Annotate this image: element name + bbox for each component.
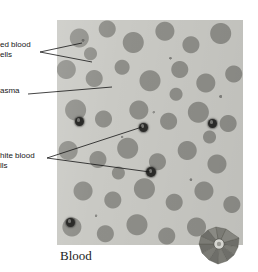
white-blood-cell-upper-left — [75, 117, 84, 126]
white-blood-cell-right — [208, 119, 217, 128]
white-blood-cell-lower-center — [146, 167, 156, 177]
label-red-blood-cells-line2: ells — [0, 50, 31, 60]
micrograph-plate — [57, 20, 243, 245]
label-plasma-line1: asma — [0, 86, 20, 96]
figure-caption: Blood — [60, 248, 92, 264]
blood-micrograph-figure: ed blood ells asma hite blood lls Blood — [0, 0, 258, 272]
micrograph-vignette — [57, 20, 243, 245]
pinwheel-diatom-icon — [196, 222, 242, 266]
label-red-blood-cells: ed blood ells — [0, 40, 31, 60]
white-blood-cell-center — [139, 123, 148, 132]
label-white-blood-cells: hite blood lls — [0, 151, 35, 171]
label-red-blood-cells-line1: ed blood — [0, 40, 31, 50]
label-white-blood-cells-line1: hite blood — [0, 151, 35, 161]
label-white-blood-cells-line2: lls — [0, 161, 35, 171]
label-plasma: asma — [0, 86, 20, 96]
white-blood-cell-lower-left — [66, 218, 75, 227]
